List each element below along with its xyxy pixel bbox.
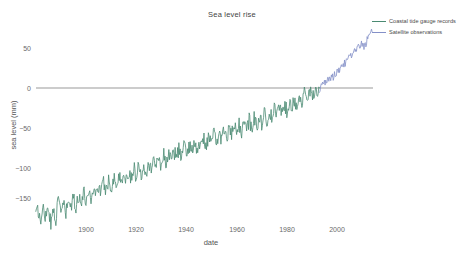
series-line-satellite (319, 29, 372, 92)
legend-label-satellite: Satellite observations (389, 28, 442, 37)
legend-item-tide-gauge[interactable]: Coastal tide gauge records (372, 17, 464, 26)
y-tick-label: 50 (23, 45, 31, 52)
y-tick-label: −50 (19, 125, 31, 132)
x-tick-label: 1980 (279, 226, 295, 233)
legend-item-satellite[interactable]: Satellite observations (372, 28, 464, 37)
legend-swatch-tide-gauge (372, 21, 386, 22)
x-tick-label: 1940 (178, 226, 194, 233)
legend-swatch-satellite (372, 32, 386, 33)
x-tick-label: 1920 (128, 226, 144, 233)
y-tick-label: −100 (15, 165, 31, 172)
y-axis-title: sea level (mm) (9, 100, 18, 150)
chart-figure: Sea level rise 50 0 −50 −100 −150 1900 1… (0, 0, 464, 262)
y-tick-label: −150 (15, 195, 31, 202)
y-tick-label: 0 (27, 85, 31, 92)
chart-legend: Coastal tide gauge records Satellite obs… (372, 17, 464, 39)
series-line-tide-gauge (36, 87, 320, 230)
x-tick-label: 2000 (329, 226, 345, 233)
plot-area: 50 0 −50 −100 −150 1900 1920 1940 1960 1… (0, 0, 464, 262)
legend-label-tide-gauge: Coastal tide gauge records (389, 17, 456, 26)
series-group (36, 29, 372, 229)
x-tick-label: 1960 (229, 226, 245, 233)
x-tick-label: 1900 (78, 226, 94, 233)
x-axis-title: date (204, 238, 219, 247)
